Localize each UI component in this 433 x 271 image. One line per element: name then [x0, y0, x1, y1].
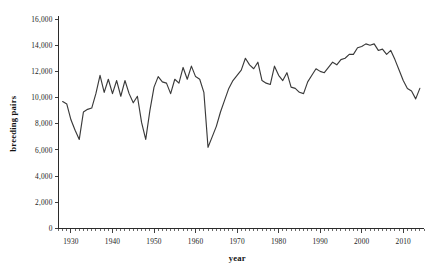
y-axis-title: breeding pairs — [8, 95, 18, 151]
x-tick-label: 2000 — [354, 237, 370, 246]
y-axis-tick-labels: 02,0004,0006,0008,00010,00012,00014,0001… — [31, 15, 52, 234]
x-tick-label: 2010 — [396, 237, 412, 246]
data-line-breeding-pairs — [63, 44, 420, 147]
line-chart: 02,0004,0006,0008,00010,00012,00014,0001… — [0, 0, 433, 271]
x-axis-title: year — [229, 253, 246, 263]
y-tick-label: 8,000 — [35, 119, 53, 128]
y-tick-label: 10,000 — [31, 93, 52, 102]
x-tick-label: 1960 — [188, 237, 204, 246]
y-tick-label: 12,000 — [31, 67, 52, 76]
y-tick-label: 14,000 — [31, 41, 52, 50]
y-tick-label: 6,000 — [35, 146, 53, 155]
x-tick-label: 1940 — [105, 237, 121, 246]
x-tick-label: 1990 — [312, 237, 328, 246]
x-tick-label: 1930 — [63, 237, 79, 246]
x-tick-label: 1950 — [146, 237, 162, 246]
y-tick-label: 0 — [49, 224, 53, 233]
x-axis-tick-labels: 193019401950196019701980199020002010 — [63, 237, 411, 246]
y-tick-label: 16,000 — [31, 15, 52, 24]
chart-figure: 02,0004,0006,0008,00010,00012,00014,0001… — [0, 0, 433, 271]
x-tick-label: 1980 — [271, 237, 287, 246]
x-tick-label: 1970 — [229, 237, 245, 246]
y-tick-label: 4,000 — [35, 172, 53, 181]
y-tick-label: 2,000 — [35, 198, 53, 207]
